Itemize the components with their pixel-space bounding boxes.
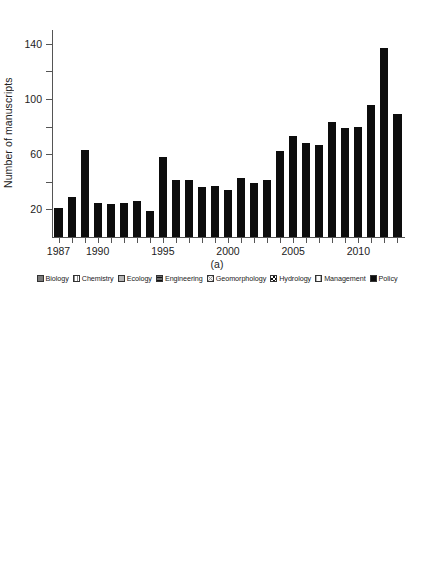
legend-swatch-ecology <box>118 275 125 282</box>
legend-swatch-policy <box>370 275 377 282</box>
y-tick-label-20: 20 <box>0 203 46 215</box>
legend-swatch-management <box>315 275 322 282</box>
bar-2007 <box>315 145 323 237</box>
bar-1996 <box>172 180 180 237</box>
x-tick-1997 <box>189 238 190 243</box>
panel-a-y-axis-title: Number of manuscripts <box>2 58 16 208</box>
legend-swatch-engineering <box>156 275 163 282</box>
y-tick-label-140: 140 <box>0 38 46 50</box>
x-tick-2009 <box>345 238 346 243</box>
legend-item-chemistry: Chemistry <box>73 274 114 283</box>
x-tick-2012 <box>384 238 385 243</box>
x-tick-2005 <box>293 238 294 243</box>
x-tick-1992 <box>124 238 125 243</box>
bar-2009 <box>341 128 349 237</box>
bar-1993 <box>133 201 141 237</box>
x-tick-1988 <box>72 238 73 243</box>
legend-label-biology: Biology <box>46 274 69 283</box>
legend-swatch-biology <box>37 275 44 282</box>
panel-a-caption: (a) <box>0 258 434 270</box>
legend-item-engineering: Engineering <box>156 274 203 283</box>
x-tick-1998 <box>202 238 203 243</box>
bar-1992 <box>120 203 128 238</box>
x-tick-2001 <box>241 238 242 243</box>
panel-a-plot-area <box>52 30 404 237</box>
bar-1989 <box>81 150 89 237</box>
bar-1991 <box>107 204 115 237</box>
x-tick-2004 <box>280 238 281 243</box>
legend-label-ecology: Ecology <box>127 274 152 283</box>
bar-2000 <box>224 190 232 237</box>
legend-label-geomorphology: Geomorphology <box>216 274 267 283</box>
bar-2001 <box>237 178 245 237</box>
bar-1997 <box>185 180 193 237</box>
bar-2005 <box>289 136 297 237</box>
bar-2002 <box>250 183 258 237</box>
bar-1995 <box>159 157 167 237</box>
bar-1999 <box>211 186 219 237</box>
legend-item-biology: Biology <box>37 274 69 283</box>
x-tick-label-2010: 2010 <box>347 245 370 257</box>
bar-2003 <box>263 180 271 237</box>
x-tick-label-2000: 2000 <box>216 245 239 257</box>
bar-2006 <box>302 143 310 237</box>
legend-label-policy: Policy <box>379 274 398 283</box>
x-tick-1995 <box>163 238 164 243</box>
x-tick-label-1990: 1990 <box>86 245 109 257</box>
x-tick-1999 <box>215 238 216 243</box>
x-tick-2000 <box>228 238 229 243</box>
bar-2008 <box>328 122 336 237</box>
legend-item-management: Management <box>315 274 365 283</box>
x-tick-label-2005: 2005 <box>281 245 304 257</box>
legend-label-engineering: Engineering <box>165 274 203 283</box>
x-tick-2008 <box>332 238 333 243</box>
legend-item-policy: Policy <box>370 274 398 283</box>
y-tick-label-100: 100 <box>0 93 46 105</box>
legend-item-ecology: Ecology <box>118 274 152 283</box>
x-tick-1987 <box>59 238 60 243</box>
legend-swatch-geomorphology <box>207 275 214 282</box>
bar-2013 <box>393 114 401 237</box>
bar-2004 <box>276 151 284 237</box>
bar-1988 <box>68 197 76 237</box>
panel-a-bar-chart: Number of manuscripts 2060100140 1987199… <box>0 0 434 268</box>
x-tick-2007 <box>319 238 320 243</box>
x-tick-2006 <box>306 238 307 243</box>
legend-label-management: Management <box>324 274 365 283</box>
legend-item-geomorphology: Geomorphology <box>207 274 267 283</box>
x-tick-1991 <box>111 238 112 243</box>
bar-1998 <box>198 187 206 237</box>
x-tick-2010 <box>358 238 359 243</box>
bar-2010 <box>354 127 362 237</box>
bar-1994 <box>146 211 154 237</box>
legend-item-hydrology: Hydrology <box>270 274 311 283</box>
legend-swatch-hydrology <box>270 275 277 282</box>
legend-label-hydrology: Hydrology <box>279 274 311 283</box>
x-tick-2013 <box>397 238 398 243</box>
panel-b-stacked-chart: Contribution 20 %40 %60 %80 %100 % 19871… <box>0 288 434 577</box>
legend-swatch-chemistry <box>73 275 80 282</box>
x-tick-2003 <box>267 238 268 243</box>
y-tick-label-60: 60 <box>0 148 46 160</box>
x-tick-1996 <box>176 238 177 243</box>
x-tick-1993 <box>137 238 138 243</box>
x-tick-1989 <box>85 238 86 243</box>
bar-2012 <box>380 48 388 237</box>
x-tick-1990 <box>98 238 99 243</box>
legend-label-chemistry: Chemistry <box>82 274 114 283</box>
bar-1990 <box>94 203 102 238</box>
bar-1987 <box>54 208 62 237</box>
x-tick-2011 <box>371 238 372 243</box>
figure-legend: BiologyChemistryEcologyEngineeringGeomor… <box>0 272 434 284</box>
x-tick-label-1987: 1987 <box>47 245 70 257</box>
x-tick-label-1995: 1995 <box>151 245 174 257</box>
bar-2011 <box>367 105 375 237</box>
x-tick-1994 <box>150 238 151 243</box>
x-tick-2002 <box>254 238 255 243</box>
